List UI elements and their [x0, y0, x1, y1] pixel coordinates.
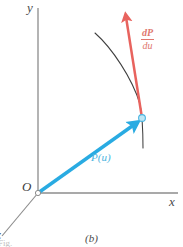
origin-label: O [22, 180, 31, 193]
derivative-denominator: du [141, 40, 154, 51]
z-axis-line [2, 193, 38, 236]
derivative-vector-label: dP du [141, 28, 154, 51]
vector-diagram-canvas [0, 0, 183, 247]
y-axis-label: y [27, 1, 33, 14]
position-vector-arrow [38, 124, 135, 193]
x-axis-label: x [169, 195, 175, 208]
curve-point-marker [139, 115, 146, 122]
cropped-edge-text: Fig. [0, 238, 12, 247]
derivative-numerator: dP [141, 28, 154, 40]
parametric-curve [95, 33, 143, 148]
position-vector-label: P(u) [91, 152, 111, 163]
derivative-vector-arrow [126, 17, 142, 118]
figure-panel-b: y x z O P(u) dP du (b) Fig. [0, 0, 183, 247]
origin-marker [35, 190, 40, 195]
figure-caption: (b) [0, 232, 183, 244]
